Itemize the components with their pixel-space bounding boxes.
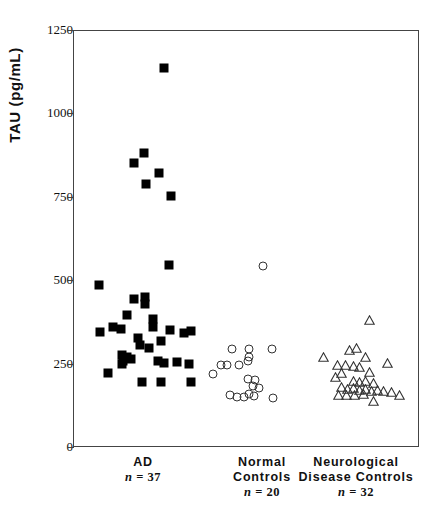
data-point-square bbox=[155, 168, 164, 177]
data-point-circle bbox=[228, 344, 237, 353]
data-point-square bbox=[149, 314, 158, 323]
data-point-square bbox=[127, 354, 136, 363]
data-point-square bbox=[130, 294, 139, 303]
data-point-square bbox=[187, 377, 196, 386]
data-point-square bbox=[118, 359, 127, 368]
data-point-square bbox=[140, 148, 149, 157]
data-point-circle bbox=[269, 393, 278, 402]
data-point-circle bbox=[244, 356, 253, 365]
data-point-square bbox=[185, 359, 194, 368]
data-point-square bbox=[160, 358, 169, 367]
data-point-square bbox=[166, 325, 175, 334]
data-point-square bbox=[145, 343, 154, 352]
data-point-square bbox=[123, 310, 132, 319]
data-point-square bbox=[95, 280, 104, 289]
data-point-square bbox=[149, 323, 158, 332]
group-sample-size: n = 32 bbox=[271, 485, 439, 500]
data-point-circle bbox=[255, 383, 264, 392]
data-point-square bbox=[165, 260, 174, 269]
data-point-square bbox=[104, 368, 113, 377]
plot-area bbox=[73, 30, 419, 447]
data-point-circle bbox=[235, 361, 244, 370]
data-point-circle bbox=[268, 344, 277, 353]
data-point-square bbox=[187, 327, 196, 336]
data-point-square bbox=[142, 180, 151, 189]
data-point-circle bbox=[245, 344, 254, 353]
y-axis-ticks: 125010007505002500 bbox=[0, 0, 73, 513]
group-label-line1: AD bbox=[83, 455, 203, 470]
group-label-line1: Neurological bbox=[271, 455, 439, 470]
group-label-3: NeurologicalDisease Controlsn = 32 bbox=[271, 455, 439, 500]
data-point-square bbox=[117, 324, 126, 333]
data-point-square bbox=[160, 63, 169, 72]
data-point-square bbox=[138, 377, 147, 386]
group-sample-size: n = 37 bbox=[83, 470, 203, 485]
data-point-square bbox=[173, 357, 182, 366]
data-point-square bbox=[167, 192, 176, 201]
data-point-square bbox=[157, 336, 166, 345]
group-label-1: ADn = 37 bbox=[83, 455, 203, 485]
data-point-circle bbox=[209, 369, 218, 378]
data-point-circle bbox=[250, 392, 259, 401]
data-point-circle bbox=[223, 361, 232, 370]
data-point-square bbox=[136, 340, 145, 349]
data-point-square bbox=[141, 293, 150, 302]
data-point-square bbox=[130, 158, 139, 167]
data-point-square bbox=[96, 327, 105, 336]
scatter-plot-figure: TAU (pg/mL) 125010007505002500 ADn = 37N… bbox=[0, 0, 439, 513]
y-tick-mark bbox=[67, 447, 74, 448]
data-point-square bbox=[157, 377, 166, 386]
data-point-circle bbox=[259, 262, 268, 271]
group-label-line2: Disease Controls bbox=[271, 470, 439, 485]
